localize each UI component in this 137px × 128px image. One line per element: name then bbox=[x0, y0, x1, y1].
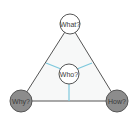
node-why: Why? bbox=[10, 90, 32, 112]
triangle-diagram: What? Who? Why? How? bbox=[0, 0, 137, 128]
node-why-label: Why? bbox=[12, 98, 30, 106]
node-how-label: How? bbox=[108, 98, 126, 105]
node-what: What? bbox=[60, 14, 80, 34]
node-what-label: What? bbox=[60, 21, 80, 28]
node-how: How? bbox=[106, 90, 128, 112]
node-who-label: Who? bbox=[60, 71, 78, 78]
node-who: Who? bbox=[59, 64, 79, 84]
